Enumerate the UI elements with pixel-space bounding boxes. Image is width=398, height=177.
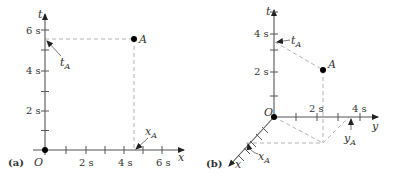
t-a-label: tA xyxy=(60,56,70,71)
t-a-pointer-arrow xyxy=(47,41,61,56)
x-axis-label: x xyxy=(178,151,185,164)
t-axis-label: t xyxy=(266,5,271,18)
y-tick-label-2s: 2 s xyxy=(309,103,324,114)
panel-a: 2 s 4 s 6 s 2 s 4 s 6 s t x O (a) A tA x… xyxy=(8,8,185,169)
t-axis-label: t xyxy=(38,8,43,21)
panel-b: 2 s 4 s 2 s 4 s t y x O (b) A tA yA xA xyxy=(206,5,379,171)
event-point-a xyxy=(320,67,326,73)
t-tick-label-2s: 2 s xyxy=(26,105,41,116)
t-tick-label-6s: 6 s xyxy=(26,25,41,36)
dashed-origin-to-base xyxy=(274,117,323,143)
y-a-label: yA xyxy=(343,132,356,147)
x-tick-label-2s: 2 s xyxy=(79,157,94,168)
panel-a-tag: (a) xyxy=(8,157,24,168)
t-tick-label-4s: 4 s xyxy=(26,65,41,76)
spacetime-diagrams: 2 s 4 s 6 s 2 s 4 s 6 s t x O (a) A tA x… xyxy=(0,0,398,177)
event-point-a xyxy=(131,36,137,42)
t-a-label: tA xyxy=(291,34,301,49)
x-tick-label-6s: 6 s xyxy=(156,157,171,168)
origin-point xyxy=(271,114,277,120)
y-axis-label: y xyxy=(371,120,379,133)
x-a-label: xA xyxy=(258,150,270,165)
t-tick-label-2s: 2 s xyxy=(254,66,269,77)
x-axis-label: x xyxy=(235,158,242,171)
panel-b-tag: (b) xyxy=(206,158,222,169)
x-a-pointer-arrow xyxy=(248,144,258,154)
origin-point xyxy=(42,147,48,153)
point-a-label: A xyxy=(327,58,336,71)
y-tick-label-4s: 4 s xyxy=(352,103,367,114)
t-a-pointer-arrow xyxy=(277,40,290,42)
origin-label: O xyxy=(34,156,43,169)
t-tick-label-4s: 4 s xyxy=(254,28,269,39)
point-a-label: A xyxy=(138,33,147,46)
x-a-pointer-arrow xyxy=(136,138,148,149)
x-tick-label-4s: 4 s xyxy=(118,157,133,168)
x-a-label: xA xyxy=(145,125,157,140)
